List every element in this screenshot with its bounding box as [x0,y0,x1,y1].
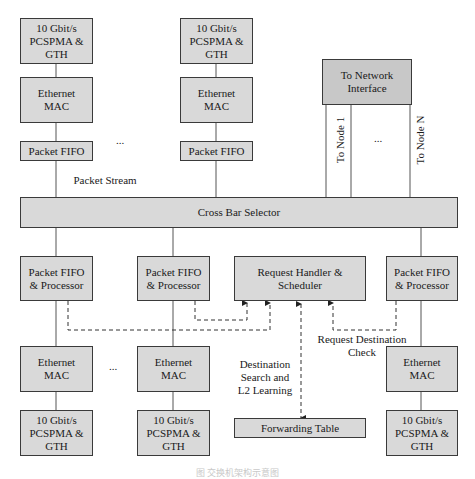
bottom-fifo-label-4: Packet FIFO & Processor [394,266,450,292]
crossbar-selector: Cross Bar Selector [20,197,458,228]
top-mac-box-2: Ethernet MAC [180,77,253,123]
bottom-fifo-label-1: Packet FIFO & Processor [29,266,85,292]
top-fifo-label-2: Packet FIFO [189,145,245,158]
top-fifo-label-1: Packet FIFO [29,145,85,158]
bottom-phy-box-4: 10 Gbit/s PCSPMA & GTH [386,410,458,456]
top-phy-box-1: 10 Gbit/s PCSPMA & GTH [20,18,93,64]
forwarding-table-box: Forwarding Table [234,418,366,438]
bottom-mac-label-4: Ethernet MAC [403,356,440,382]
bottom-phy-label-1: 10 Gbit/s PCSPMA & GTH [29,414,83,453]
bottom-mac-box-1: Ethernet MAC [20,346,93,392]
bottom-mac-label-2: Ethernet MAC [155,356,192,382]
top-mac-label-1: Ethernet MAC [38,87,75,113]
bottom-phy-box-1: 10 Gbit/s PCSPMA & GTH [20,410,93,456]
forwarding-table-label: Forwarding Table [261,422,339,435]
to-node-1-label: To Node 1 [334,110,346,170]
top-ellipsis: ... [110,134,130,147]
request-handler-label: Request Handler & Scheduler [258,266,343,292]
destination-search-label: Destination Search and L2 Learning [232,358,298,397]
network-interface-label: To Network Interface [341,69,394,95]
top-mac-box-1: Ethernet MAC [20,77,93,123]
top-mac-label-2: Ethernet MAC [198,87,235,113]
bottom-mac-label-1: Ethernet MAC [38,356,75,382]
crossbar-label: Cross Bar Selector [198,206,280,219]
packet-stream-label: Packet Stream [72,174,138,187]
bottom-phy-label-4: 10 Gbit/s PCSPMA & GTH [395,414,449,453]
node-ellipsis: ... [368,132,388,145]
top-phy-label-1: 10 Gbit/s PCSPMA & GTH [29,22,83,61]
top-fifo-box-1: Packet FIFO [20,141,93,161]
top-phy-box-2: 10 Gbit/s PCSPMA & GTH [180,18,253,64]
bottom-mac-box-4: Ethernet MAC [386,346,458,392]
figure-caption: 图 交换机架构示意图 [0,466,475,479]
bottom-phy-box-2: 10 Gbit/s PCSPMA & GTH [137,410,210,456]
bottom-fifo-label-2: Packet FIFO & Processor [146,266,202,292]
bottom-fifo-box-4: Packet FIFO & Processor [386,256,458,301]
to-node-n-label: To Node N [414,110,426,170]
bottom-phy-label-2: 10 Gbit/s PCSPMA & GTH [146,414,200,453]
network-interface-box: To Network Interface [322,59,412,105]
bottom-fifo-box-1: Packet FIFO & Processor [20,256,93,301]
bottom-ellipsis: ... [103,360,123,373]
request-handler-box: Request Handler & Scheduler [234,256,366,301]
top-fifo-box-2: Packet FIFO [180,141,253,161]
bottom-mac-box-2: Ethernet MAC [137,346,210,392]
bottom-fifo-box-2: Packet FIFO & Processor [137,256,210,301]
top-phy-label-2: 10 Gbit/s PCSPMA & GTH [189,22,243,61]
